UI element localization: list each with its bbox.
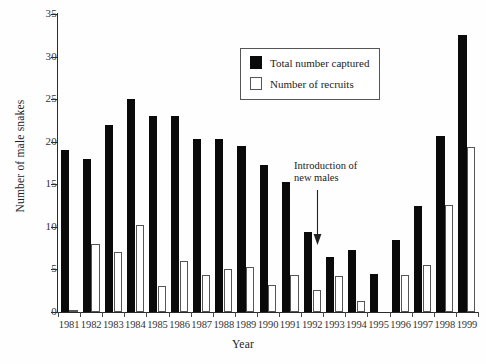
bar-total-captured bbox=[414, 206, 422, 312]
down-arrow-icon bbox=[312, 190, 323, 246]
bar-total-captured bbox=[105, 125, 113, 312]
bar-total-captured bbox=[436, 136, 444, 312]
x-axis-tick bbox=[412, 312, 413, 317]
bar-total-captured bbox=[237, 146, 245, 312]
y-axis-title-container: Number of male snakes bbox=[0, 0, 24, 364]
x-axis-tick bbox=[390, 312, 391, 317]
bar-total-captured bbox=[348, 250, 356, 312]
legend-swatch-filled-icon bbox=[250, 56, 262, 69]
annotation-text: Introduction of new males bbox=[294, 160, 390, 184]
bar-recruits bbox=[202, 275, 210, 312]
bar-recruits bbox=[423, 265, 431, 312]
bar-recruits bbox=[313, 290, 321, 312]
x-axis-tick bbox=[367, 312, 368, 317]
x-axis-tick-label: 1999 bbox=[451, 319, 483, 330]
bar-total-captured bbox=[61, 150, 69, 312]
x-axis-tick bbox=[235, 312, 236, 317]
x-axis-tick bbox=[191, 312, 192, 317]
x-axis-tick bbox=[58, 312, 59, 317]
bar-recruits bbox=[224, 269, 232, 312]
bar-recruits bbox=[445, 205, 453, 312]
bar-recruits bbox=[69, 310, 77, 312]
legend-entry-recruits: Number of recruits bbox=[250, 77, 354, 90]
bar-recruits bbox=[91, 244, 99, 312]
chart-figure: 05101520253035 Number of male snakes 198… bbox=[0, 0, 486, 364]
x-axis-tick bbox=[146, 312, 147, 317]
bar-recruits bbox=[180, 261, 188, 312]
annotation-line-2: new males bbox=[294, 172, 390, 184]
y-axis-title: Number of male snakes bbox=[14, 56, 26, 256]
bar-recruits bbox=[401, 275, 409, 312]
x-axis-tick bbox=[80, 312, 81, 317]
bar-total-captured bbox=[392, 240, 400, 312]
bar-recruits bbox=[158, 286, 166, 312]
annotation-line-1: Introduction of bbox=[294, 160, 390, 172]
legend-label-recruits: Number of recruits bbox=[270, 78, 354, 90]
bar-total-captured bbox=[193, 139, 201, 312]
x-axis-tick bbox=[345, 312, 346, 317]
x-axis-tick bbox=[102, 312, 103, 317]
bar-recruits bbox=[467, 147, 475, 312]
x-axis-tick bbox=[434, 312, 435, 317]
bar-total-captured bbox=[149, 116, 157, 312]
x-axis-tick bbox=[301, 312, 302, 317]
x-axis-tick bbox=[456, 312, 457, 317]
x-axis-tick bbox=[323, 312, 324, 317]
bar-total-captured bbox=[326, 257, 334, 312]
bar-total-captured bbox=[260, 165, 268, 312]
chart-legend: Total number captured Number of recruits bbox=[240, 48, 380, 100]
x-axis-tick bbox=[213, 312, 214, 317]
bar-total-captured bbox=[215, 139, 223, 312]
bar-total-captured bbox=[171, 116, 179, 312]
legend-swatch-hollow-icon bbox=[250, 77, 262, 90]
bar-recruits bbox=[268, 285, 276, 312]
bar-total-captured bbox=[370, 274, 378, 312]
bar-recruits bbox=[246, 267, 254, 312]
bar-recruits bbox=[114, 252, 122, 312]
bar-total-captured bbox=[304, 232, 312, 312]
x-axis-tick bbox=[257, 312, 258, 317]
bar-recruits bbox=[290, 275, 298, 312]
bar-recruits bbox=[357, 301, 365, 312]
bar-total-captured bbox=[458, 35, 466, 312]
x-axis-tick bbox=[279, 312, 280, 317]
x-axis-line bbox=[57, 312, 478, 313]
bar-total-captured bbox=[282, 182, 290, 312]
legend-label-total-captured: Total number captured bbox=[270, 57, 369, 69]
bar-recruits bbox=[335, 276, 343, 312]
x-axis-tick bbox=[169, 312, 170, 317]
bar-recruits bbox=[136, 225, 144, 312]
annotation-introduction-new-males: Introduction of new males bbox=[294, 160, 390, 184]
x-axis-tick bbox=[124, 312, 125, 317]
bar-total-captured bbox=[127, 99, 135, 312]
legend-entry-total-captured: Total number captured bbox=[250, 56, 369, 69]
x-axis-tick bbox=[478, 312, 479, 317]
bar-total-captured bbox=[83, 159, 91, 312]
x-axis-title: Year bbox=[0, 338, 486, 350]
